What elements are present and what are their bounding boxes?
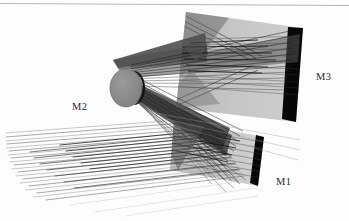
label-m2: M2: [72, 101, 87, 112]
ray-trace-canvas: [0, 0, 349, 221]
top-rule: [0, 4, 349, 6]
label-m1: M1: [276, 176, 291, 187]
mirror-m2: [110, 69, 145, 107]
optical-ray-trace-figure: M1 M2 M3: [0, 0, 349, 221]
label-m3: M3: [316, 71, 331, 82]
